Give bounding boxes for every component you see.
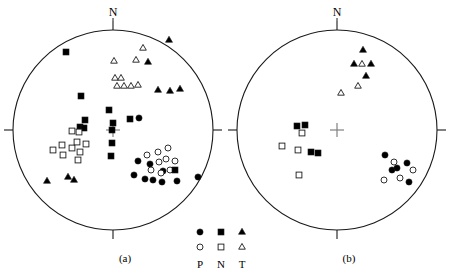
datapoint-filled-square	[294, 123, 300, 129]
symbol-filled-square	[294, 123, 300, 129]
north-label-b: N	[325, 5, 349, 20]
series-a-open-square	[50, 128, 89, 163]
symbol-open-square	[59, 142, 65, 148]
datapoint-filled-triangle	[363, 72, 370, 78]
symbol-filled-square	[308, 149, 314, 155]
datapoint-open-triangle	[133, 56, 140, 62]
symbol-open-triangle	[128, 82, 135, 88]
symbol-open-square	[83, 141, 89, 147]
legend-label-n: N	[212, 258, 230, 270]
symbol-filled-square	[302, 122, 308, 128]
datapoint-open-circle	[158, 170, 164, 176]
symbol-filled-circle	[136, 115, 142, 121]
symbol-open-square	[69, 145, 75, 151]
datapoint-open-triangle	[111, 57, 118, 63]
symbol-filled-square	[82, 117, 88, 123]
series-a-open-triangle	[111, 44, 147, 88]
symbol-filled-circle	[174, 178, 180, 184]
symbol-open-triangle	[135, 81, 142, 87]
symbol-open-circle	[163, 156, 169, 162]
datapoint-open-square	[299, 130, 305, 136]
symbol-filled-square	[127, 116, 133, 122]
symbol-open-triangle	[118, 74, 125, 80]
datapoint-filled-circle	[142, 176, 148, 182]
datapoint-filled-circle	[159, 179, 165, 185]
panel-label-b: (b)	[329, 252, 369, 264]
symbol-filled-circle	[131, 172, 137, 178]
symbol-open-circle	[165, 145, 171, 151]
symbol-filled-circle	[159, 179, 165, 185]
datapoint-open-square	[59, 142, 65, 148]
symbol-filled-square	[108, 153, 114, 159]
symbol-open-square	[295, 147, 301, 153]
datapoint-open-triangle	[338, 89, 345, 95]
datapoint-filled-triangle	[145, 58, 152, 64]
symbol-filled-triangle	[177, 85, 184, 91]
symbol-open-square	[77, 149, 83, 155]
datapoint-filled-square	[308, 149, 314, 155]
datapoint-filled-triangle	[167, 87, 174, 93]
datapoint-filled-square	[315, 150, 321, 156]
symbol-open-triangle	[112, 74, 119, 80]
datapoint-filled-square	[78, 93, 84, 99]
stereonet-panel-a	[4, 18, 222, 239]
datapoint-open-triangle	[140, 44, 147, 50]
datapoint-filled-square	[106, 107, 112, 113]
symbol-open-square	[279, 143, 285, 149]
symbol-filled-circle	[147, 161, 153, 167]
datapoint-filled-circle	[131, 172, 137, 178]
stereonet-figure: N N (a) (b) P N T	[0, 0, 455, 277]
symbol-filled-triangle	[363, 72, 370, 78]
symbol-filled-triangle	[65, 173, 72, 179]
symbol-filled-square	[78, 93, 84, 99]
datapoint-filled-circle	[195, 174, 201, 180]
symbol-open-square	[299, 130, 305, 136]
symbol-open-square	[218, 244, 224, 250]
symbol-open-triangle	[239, 243, 246, 249]
symbol-open-circle	[144, 152, 150, 158]
datapoint-open-circle	[144, 152, 150, 158]
symbol-open-square	[75, 157, 81, 163]
datapoint-filled-circle	[394, 165, 400, 171]
datapoint-filled-square	[110, 120, 116, 126]
symbol-open-triangle	[359, 60, 366, 66]
symbol-filled-square	[63, 49, 69, 55]
symbol-filled-circle	[135, 158, 141, 164]
symbol-filled-circle	[195, 174, 201, 180]
legend-symbol-t-open	[239, 243, 246, 249]
datapoint-open-square	[279, 143, 285, 149]
symbol-open-triangle	[355, 82, 362, 88]
datapoint-filled-square	[127, 116, 133, 122]
symbol-filled-triangle	[239, 228, 246, 234]
datapoint-open-circle	[148, 167, 154, 173]
datapoint-filled-triangle	[166, 36, 173, 42]
datapoint-open-triangle	[359, 60, 366, 66]
symbol-filled-triangle	[166, 36, 173, 42]
symbol-filled-square	[109, 127, 115, 133]
legend-symbol-p-filled	[197, 229, 203, 235]
datapoint-filled-circle	[174, 178, 180, 184]
datapoint-filled-circle	[382, 152, 388, 158]
datapoint-open-circle	[172, 158, 178, 164]
datapoint-open-square	[76, 129, 82, 135]
symbol-filled-square	[109, 140, 115, 146]
datapoint-open-triangle	[114, 82, 121, 88]
symbol-filled-circle	[150, 177, 156, 183]
datapoint-filled-square	[108, 153, 114, 159]
datapoint-filled-square	[82, 117, 88, 123]
datapoint-filled-triangle	[351, 60, 358, 66]
datapoint-open-circle	[397, 175, 403, 181]
symbol-filled-triangle	[360, 46, 367, 52]
datapoint-open-square	[83, 141, 89, 147]
datapoint-open-square	[60, 152, 66, 158]
datapoint-open-circle	[163, 156, 169, 162]
symbol-filled-triangle	[167, 87, 174, 93]
symbol-filled-circle	[404, 160, 410, 166]
symbol-open-circle	[156, 159, 162, 165]
legend-symbol-n-open	[218, 244, 224, 250]
symbol-filled-circle	[197, 229, 203, 235]
datapoint-filled-triangle	[177, 85, 184, 91]
symbol-filled-square	[315, 150, 321, 156]
symbol-open-triangle	[338, 89, 345, 95]
datapoint-filled-circle	[136, 115, 142, 121]
